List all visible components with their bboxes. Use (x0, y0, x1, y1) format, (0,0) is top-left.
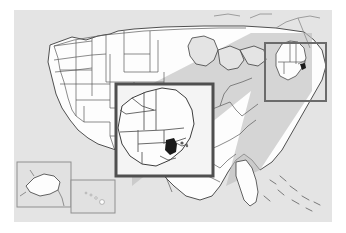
map-frame (14, 10, 332, 222)
alaska-inset[interactable] (17, 162, 71, 207)
detail-box-new-england-magnified[interactable] (116, 84, 213, 176)
island-marker (180, 141, 183, 144)
island-marker (186, 145, 188, 147)
hawaii-inset[interactable] (71, 180, 115, 213)
figure-root (0, 0, 346, 233)
map-svg (14, 10, 332, 222)
